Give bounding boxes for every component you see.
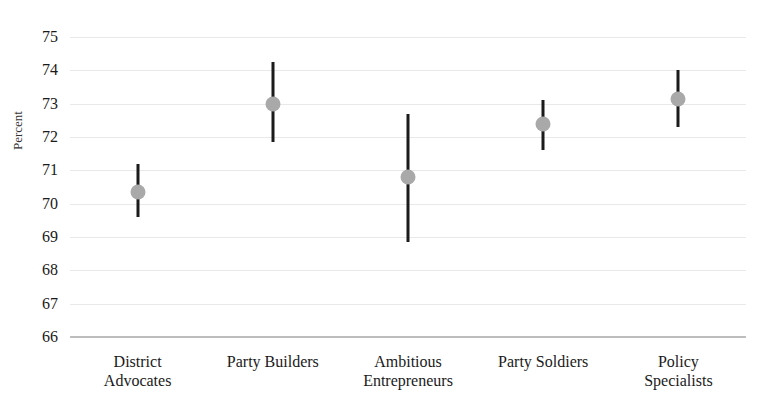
data-point-marker xyxy=(401,170,416,185)
gridline xyxy=(70,70,746,71)
gridline xyxy=(70,304,746,305)
data-point-marker xyxy=(265,96,280,111)
x-tick-label-line: Advocates xyxy=(58,371,218,390)
y-tick-label: 67 xyxy=(24,296,58,312)
y-tick-label: 69 xyxy=(24,229,58,245)
x-tick-label-line: Entrepreneurs xyxy=(328,371,488,390)
y-tick-label: 70 xyxy=(24,196,58,212)
data-point-marker xyxy=(130,185,145,200)
y-tick-label: 72 xyxy=(24,129,58,145)
gridline xyxy=(70,37,746,38)
axis-baseline xyxy=(70,336,746,338)
y-tick-label: 75 xyxy=(24,29,58,45)
y-tick-label: 73 xyxy=(24,96,58,112)
y-tick-label: 74 xyxy=(24,62,58,78)
y-tick-label: 68 xyxy=(24,262,58,278)
gridline xyxy=(70,104,746,105)
x-tick-label: PolicySpecialists xyxy=(598,352,758,390)
y-tick-label: 66 xyxy=(24,329,58,345)
y-tick-label: 71 xyxy=(24,162,58,178)
gridline xyxy=(70,270,746,271)
data-point-marker xyxy=(536,116,551,131)
x-tick-label-line: Policy xyxy=(598,352,758,371)
plot-area xyxy=(70,30,746,345)
chart-figure: Percent 75747372717069686766 DistrictAdv… xyxy=(0,0,758,415)
x-tick-label-line: Specialists xyxy=(598,371,758,390)
data-point-marker xyxy=(671,91,686,106)
